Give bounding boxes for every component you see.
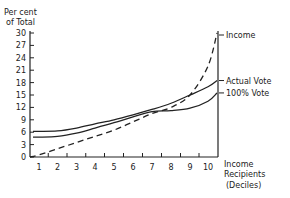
y-axis-label-line2: of Total [6,18,35,27]
y-tick-label: 12 [16,103,26,112]
x-tick-label: 9 [187,163,192,172]
legend-label: Income [226,31,256,40]
x-tick-label: 2 [55,163,60,172]
x-axis-label-line2: Recipients [224,170,265,179]
x-tick-label: 1 [36,163,41,172]
y-tick-label: 6 [21,128,26,137]
legend-label: 100% Vote [226,89,269,98]
y-ticks: 036912151821242730 [16,29,34,162]
y-tick-label: 30 [16,29,26,38]
x-axis-label-line3: (Deciles) [226,181,261,190]
series-lines [30,33,217,157]
x-axis-label-line1: Income [224,160,254,169]
y-axis-label-line1: Per cent [4,8,37,17]
y-tick-label: 9 [21,116,26,125]
x-tick-label: 5 [111,163,116,172]
x-tick-label: 7 [149,163,154,172]
y-tick-label: 0 [21,153,26,162]
y-tick-label: 18 [16,79,26,88]
y-tick-label: 27 [16,41,26,50]
y-tick-label: 24 [16,54,26,63]
x-ticks: 12345678910 [36,153,213,172]
inline-legend: IncomeActual Vote100% Vote [219,31,271,98]
x-tick-label: 10 [203,163,213,172]
legend-label: Actual Vote [226,77,271,86]
series-actual-vote [33,81,217,132]
x-tick-label: 3 [74,163,79,172]
x-tick-label: 6 [130,163,135,172]
x-tick-label: 8 [168,163,173,172]
y-tick-label: 3 [21,141,26,150]
x-tick-label: 4 [92,163,97,172]
line-chart: Per cent of Total 036912151821242730 123… [0,0,290,198]
y-tick-label: 15 [16,91,26,100]
y-tick-label: 21 [16,66,26,75]
